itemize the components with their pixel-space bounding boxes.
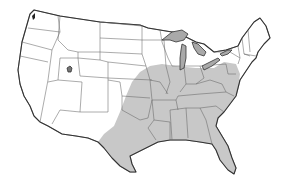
us-map [0,0,283,187]
